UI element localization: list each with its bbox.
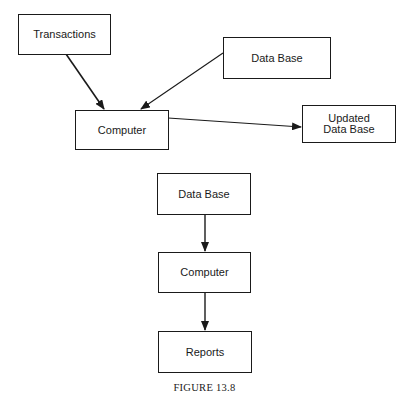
database-label-top: Data Base xyxy=(251,53,302,64)
transactions-label: Transactions xyxy=(33,29,96,40)
transactions-box: Transactions xyxy=(18,14,111,55)
computer-label-top: Computer xyxy=(98,125,146,136)
computer-box-top: Computer xyxy=(75,110,169,150)
computer-box-bottom: Computer xyxy=(158,252,251,293)
arrow-database-to-computer xyxy=(141,53,223,109)
reports-label: Reports xyxy=(186,347,225,358)
computer-label-bottom: Computer xyxy=(180,267,228,278)
updated-database-box: Updated Data Base xyxy=(302,105,396,143)
database-box-top: Data Base xyxy=(223,37,331,79)
updated-database-label-line2: Data Base xyxy=(323,124,374,135)
reports-box: Reports xyxy=(158,331,252,373)
database-box-bottom: Data Base xyxy=(157,173,251,215)
figure-caption: FIGURE 13.8 xyxy=(0,382,409,393)
database-label-bottom: Data Base xyxy=(178,189,229,200)
arrow-computer-to-updated-database xyxy=(168,118,301,127)
arrow-transactions-to-computer xyxy=(66,54,104,109)
